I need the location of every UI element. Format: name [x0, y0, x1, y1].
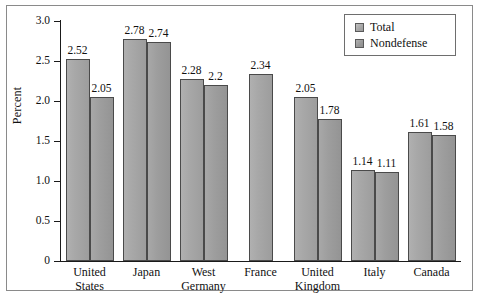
y-tick-label-wrap: 3.0	[0, 15, 50, 27]
y-tick-label: 2.5	[0, 55, 50, 67]
legend-swatch-nondefense-icon	[355, 39, 364, 48]
y-axis-label: Percent	[10, 51, 25, 161]
x-tick-label-line: States	[51, 280, 128, 294]
bar-value-label: 1.58	[426, 121, 462, 133]
legend-item-nondefense[interactable]: Nondefense	[355, 35, 455, 51]
bar-total[interactable]	[249, 74, 273, 261]
plot-area: 2.522.052.782.742.282.22.342.051.781.141…	[61, 21, 460, 261]
bar-value-label: 2.74	[141, 28, 177, 40]
y-tick-label-wrap: 0.5	[0, 215, 50, 227]
legend-label-total: Total	[370, 21, 395, 33]
y-tick-mark	[54, 101, 60, 102]
y-tick-label-wrap: 2.0	[0, 95, 50, 107]
bar-nondefense[interactable]	[90, 97, 114, 261]
bar-value-label: 1.11	[369, 158, 405, 170]
bar-total[interactable]	[180, 79, 204, 261]
bar-nondefense[interactable]	[432, 135, 456, 261]
bar-total[interactable]	[294, 97, 318, 261]
bar-value-label: 1.78	[312, 105, 348, 117]
bar-value-label: 2.34	[243, 60, 279, 72]
y-tick-mark	[54, 181, 60, 182]
y-tick-mark	[54, 61, 60, 62]
bar-value-label: 2.05	[84, 83, 120, 95]
legend-label-nondefense: Nondefense	[370, 37, 427, 49]
x-tick-label: Canada	[393, 266, 470, 280]
y-tick-mark	[54, 261, 60, 262]
x-axis-line	[60, 261, 461, 262]
legend-item-total[interactable]: Total	[355, 19, 455, 35]
y-tick-label: 2.0	[0, 95, 50, 107]
y-tick-label-wrap: 1.0	[0, 175, 50, 187]
y-tick-label: 1.0	[0, 175, 50, 187]
y-tick-label-wrap: 0	[0, 255, 50, 267]
bar-value-label: 2.05	[288, 83, 324, 95]
y-tick-label: 1.5	[0, 135, 50, 147]
y-tick-label-wrap: 2.5	[0, 55, 50, 67]
y-tick-label: 0.5	[0, 215, 50, 227]
x-tick-label-line: Kingdom	[279, 280, 356, 294]
legend-swatch-total-icon	[355, 23, 364, 32]
y-tick-mark	[54, 221, 60, 222]
bar-nondefense[interactable]	[147, 42, 171, 261]
x-tick-label-line: Canada	[393, 266, 470, 280]
y-tick-mark	[54, 141, 60, 142]
bar-total[interactable]	[123, 39, 147, 261]
y-tick-label: 3.0	[0, 15, 50, 27]
bar-total[interactable]	[351, 170, 375, 261]
y-tick-mark	[54, 21, 60, 22]
x-tick-label-line: Germany	[165, 280, 242, 294]
y-tick-label: 0	[0, 255, 50, 267]
bar-value-label: 2.2	[198, 71, 234, 83]
y-tick-label-wrap: 1.5	[0, 135, 50, 147]
chart-figure: 00.51.01.52.02.53.0 Percent 2.522.052.78…	[0, 0, 481, 298]
bar-value-label: 2.52	[60, 45, 96, 57]
bar-total[interactable]	[408, 132, 432, 261]
bar-nondefense[interactable]	[375, 172, 399, 261]
bar-nondefense[interactable]	[204, 85, 228, 261]
bar-nondefense[interactable]	[318, 119, 342, 261]
chart-legend: Total Nondefense	[344, 14, 456, 56]
